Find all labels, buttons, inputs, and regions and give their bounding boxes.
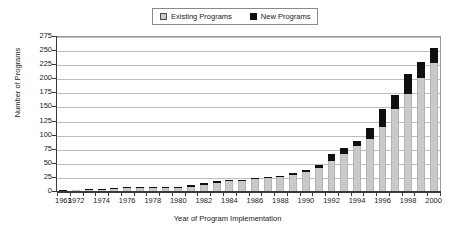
bar-segment-existing [110, 189, 118, 191]
existing-swatch-icon [160, 13, 167, 20]
bar-segment-new [417, 62, 425, 78]
bar-1976 [123, 187, 131, 191]
legend-item-existing-programs: Existing Programs [160, 13, 232, 21]
legend-label-new: New Programs [261, 13, 311, 21]
y-tick-label: 50 [10, 159, 52, 167]
bar-segment-existing [225, 181, 233, 191]
bar-1993 [340, 148, 348, 191]
bar-segment-existing [98, 190, 106, 191]
y-tick-mark [52, 78, 56, 79]
bar-1975 [110, 188, 118, 191]
y-tick-label: 100 [10, 131, 52, 139]
bar-1986 [251, 178, 259, 191]
x-tick-label: 1996 [370, 196, 396, 205]
legend-item-new-programs: New Programs [250, 13, 311, 21]
bar-series-group [57, 36, 440, 191]
y-tick-label: 25 [10, 173, 52, 181]
bar-1996 [379, 109, 387, 191]
bar-1983 [213, 181, 221, 191]
bar-1972 [72, 190, 80, 191]
bar-segment-existing [123, 188, 131, 191]
bar-segment-existing [315, 168, 323, 191]
x-tick-label: 1998 [395, 196, 421, 205]
bar-1999 [417, 62, 425, 191]
chart-figure: Existing Programs New Programs 275250225… [0, 0, 455, 234]
y-tick-mark [52, 121, 56, 122]
bar-segment-existing [72, 190, 80, 191]
x-tick-label: 1984 [216, 196, 242, 205]
y-tick-label: 75 [10, 145, 52, 153]
bar-1978 [149, 187, 157, 191]
bar-segment-new [430, 48, 438, 63]
x-tick-label: 1986 [242, 196, 268, 205]
bar-segment-existing [430, 63, 438, 191]
x-tick-label: 1992 [318, 196, 344, 205]
bar-segment-new [404, 74, 412, 94]
x-tick-label: 1990 [293, 196, 319, 205]
bar-segment-existing [391, 109, 399, 191]
bar-1977 [136, 187, 144, 191]
bar-segment-existing [302, 172, 310, 191]
bar-1991 [315, 165, 323, 191]
y-tick-mark [52, 36, 56, 37]
y-tick-mark [52, 64, 56, 65]
bar-segment-existing [162, 188, 170, 191]
bar-segment-existing [276, 177, 284, 191]
bar-1981 [187, 185, 195, 191]
bar-segment-existing [251, 179, 259, 191]
y-tick-mark [52, 135, 56, 136]
bar-1974 [98, 189, 106, 191]
x-tick-label: 1978 [140, 196, 166, 205]
bar-1998 [404, 74, 412, 191]
bar-1989 [289, 173, 297, 191]
bar-2000 [430, 48, 438, 191]
bar-segment-new [59, 190, 67, 191]
x-axis-tick-labels: 1963197219741976197819801982198419861988… [0, 196, 455, 208]
bar-segment-new [366, 128, 374, 139]
y-axis-title: Number of Programs [13, 35, 22, 131]
bar-segment-existing [264, 178, 272, 191]
y-tick-mark [52, 149, 56, 150]
y-tick-mark [52, 50, 56, 51]
legend-label-existing: Existing Programs [171, 13, 232, 21]
x-tick-label: 1988 [267, 196, 293, 205]
y-tick-mark [52, 163, 56, 164]
x-tick-label: 1974 [89, 196, 115, 205]
x-tick-label: 1980 [165, 196, 191, 205]
bar-1997 [391, 95, 399, 191]
x-tick-label: 1994 [344, 196, 370, 205]
bar-segment-existing [379, 127, 387, 191]
bar-1963 [59, 190, 67, 191]
bar-segment-existing [328, 161, 336, 191]
x-tick-label: 2000 [421, 196, 447, 205]
bar-1992 [328, 154, 336, 191]
x-tick-label: 1972 [63, 196, 89, 205]
y-tick-mark [52, 106, 56, 107]
bar-segment-existing [213, 183, 221, 191]
bar-1994 [353, 141, 361, 191]
bar-segment-existing [149, 188, 157, 191]
y-tick-mark [52, 92, 56, 93]
bar-segment-existing [353, 146, 361, 191]
bar-1988 [276, 176, 284, 191]
bar-1973 [85, 189, 93, 191]
bar-segment-existing [366, 139, 374, 191]
bar-segment-existing [187, 187, 195, 192]
bar-segment-existing [85, 190, 93, 191]
y-tick-mark [52, 177, 56, 178]
x-axis-title: Year of Program Implementation [0, 214, 455, 223]
bar-1987 [264, 177, 272, 191]
y-tick-label: 0 [10, 187, 52, 195]
bar-segment-existing [404, 94, 412, 191]
bar-1985 [238, 180, 246, 191]
bar-segment-existing [200, 185, 208, 191]
bar-segment-existing [289, 175, 297, 191]
bar-segment-existing [417, 78, 425, 191]
bar-segment-existing [136, 188, 144, 191]
chart-legend: Existing Programs New Programs [152, 8, 318, 25]
bar-1982 [200, 183, 208, 191]
y-tick-mark [52, 191, 56, 192]
bar-1990 [302, 170, 310, 191]
x-tick-label: 1982 [191, 196, 217, 205]
bar-1979 [162, 187, 170, 191]
